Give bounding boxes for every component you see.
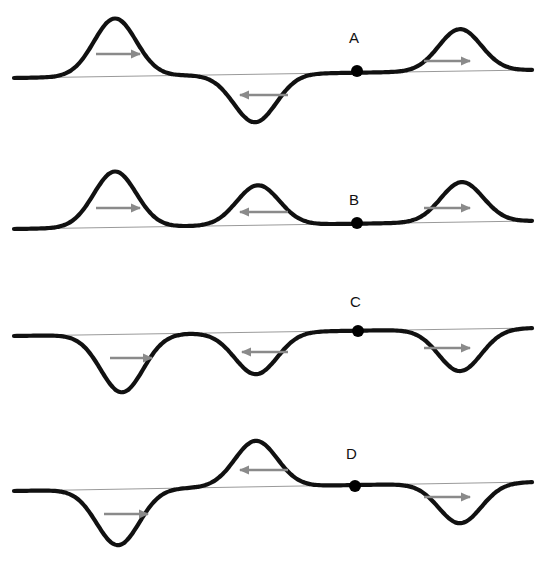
panel-label-a: A xyxy=(349,30,359,45)
arrow-right-icon xyxy=(96,49,141,58)
marked-point-dot xyxy=(351,217,363,229)
marked-point-dot xyxy=(349,480,361,492)
wave-pulse-figure: A B C D xyxy=(0,0,545,568)
wave-panel-c-svg xyxy=(0,290,545,410)
panel-label-b: B xyxy=(349,192,359,207)
panel-label-d: D xyxy=(346,446,357,461)
arrow-left-icon xyxy=(239,207,288,216)
panel-label-c: C xyxy=(350,294,361,309)
marked-point-dot xyxy=(351,65,363,77)
undisturbed-string-baseline xyxy=(14,221,532,229)
wave-panel-b-svg xyxy=(0,150,545,280)
wave-panel-a-svg xyxy=(0,0,545,145)
wave-panel-a: A xyxy=(0,0,545,145)
wave-curve xyxy=(14,18,532,122)
undisturbed-string-baseline xyxy=(14,70,532,78)
undisturbed-string-baseline xyxy=(14,482,532,491)
wave-curve xyxy=(14,441,532,545)
wave-curve xyxy=(14,328,532,392)
wave-curve xyxy=(14,171,532,229)
wave-panel-c: C xyxy=(0,290,545,410)
marked-point-dot xyxy=(352,325,364,337)
undisturbed-string-baseline xyxy=(14,328,532,336)
wave-panel-b: B xyxy=(0,150,545,280)
wave-panel-d-svg xyxy=(0,425,545,568)
wave-panel-d: D xyxy=(0,425,545,568)
arrow-left-icon xyxy=(239,465,288,474)
arrow-right-icon xyxy=(96,203,141,212)
